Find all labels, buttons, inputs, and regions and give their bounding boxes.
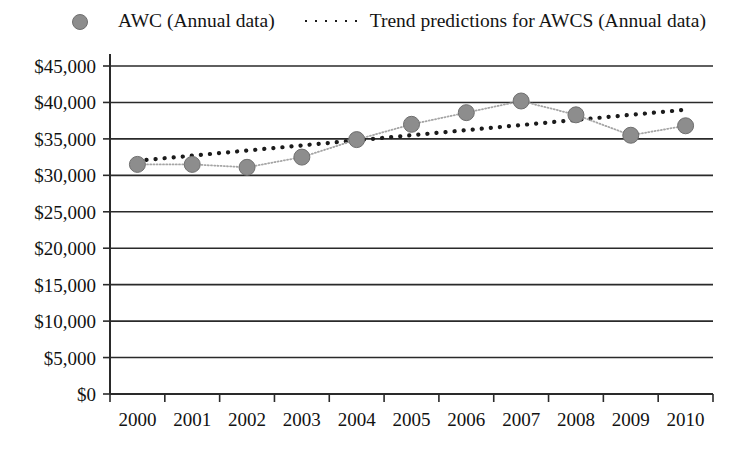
chart-container: AWC (Annual data) Trend predictions for … (0, 0, 755, 458)
x-axis-tick-label: 2006 (447, 410, 485, 429)
x-axis-tick-label: 2003 (283, 410, 321, 429)
x-axis-tick-label: 2002 (228, 410, 266, 429)
x-axis-tick-label: 2005 (393, 410, 431, 429)
legend-label-awc: AWC (Annual data) (118, 11, 275, 31)
legend-swatch-trend-icon (301, 14, 363, 28)
legend-swatch-awc-icon (49, 14, 111, 28)
legend-label-trend: Trend predictions for AWCS (Annual data) (370, 11, 706, 31)
x-axis-tick-label: 2004 (338, 410, 376, 429)
x-axis-tick-label: 2001 (173, 410, 211, 429)
legend-item-trend: Trend predictions for AWCS (Annual data) (301, 11, 706, 31)
x-axis-tick-label: 2007 (502, 410, 540, 429)
x-axis-tick-label: 2008 (557, 410, 595, 429)
x-axis-labels: 2000200120022003200420052006200720082009… (0, 40, 755, 458)
plot-area: $0$5,000$10,000$15,000$20,000$25,000$30,… (0, 40, 755, 458)
x-axis-tick-label: 2000 (118, 410, 156, 429)
chart-legend: AWC (Annual data) Trend predictions for … (0, 6, 755, 36)
legend-item-awc: AWC (Annual data) (49, 11, 275, 31)
x-axis-tick-label: 2010 (667, 410, 705, 429)
x-axis-tick-label: 2009 (612, 410, 650, 429)
